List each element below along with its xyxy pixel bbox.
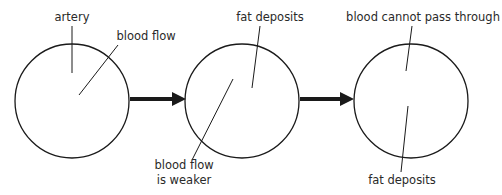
label-fat-deposits-1: fat deposits (236, 10, 304, 24)
panel-blocked-artery: blood cannot pass through fat deposits (346, 10, 500, 187)
label-blood-flow-weaker-2: is weaker (157, 173, 212, 187)
panel-healthy-artery: artery blood flow (15, 10, 176, 171)
progression-arrow-2 (300, 92, 354, 106)
progression-arrow-1 (130, 92, 186, 106)
label-fat-deposits-2: fat deposits (368, 173, 436, 187)
label-blood-cannot-pass: blood cannot pass through (346, 10, 500, 24)
artery-diagram: artery blood flow fat deposits blood flo… (0, 0, 502, 195)
label-artery: artery (55, 10, 90, 24)
label-blood-flow: blood flow (116, 29, 175, 43)
label-blood-flow-weaker-1: blood flow (154, 158, 213, 172)
